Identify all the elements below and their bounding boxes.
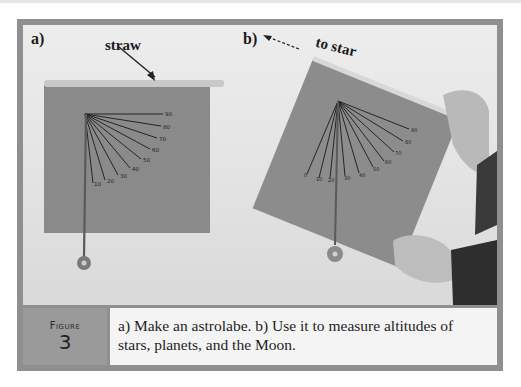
svg-text:50: 50 (373, 166, 379, 172)
svg-text:40: 40 (359, 172, 365, 178)
panel-b-board (253, 56, 477, 274)
svg-text:20: 20 (107, 178, 114, 184)
panel-b-label: b) (243, 30, 257, 48)
lower-hand (393, 235, 453, 282)
svg-text:40: 40 (132, 166, 139, 172)
svg-text:10: 10 (94, 181, 101, 187)
figure-caption-box: a) Make an astrolabe. b) Use it to measu… (110, 308, 497, 365)
svg-text:10: 10 (316, 176, 322, 182)
svg-text:70: 70 (159, 136, 166, 142)
straw-annotation: straw (105, 37, 141, 54)
figure-caption: a) Make an astrolabe. b) Use it to measu… (110, 308, 497, 354)
svg-text:90: 90 (165, 111, 172, 117)
svg-text:70: 70 (395, 150, 401, 156)
svg-text:30: 30 (120, 173, 127, 179)
svg-text:60: 60 (385, 159, 391, 165)
figure-photo: 908070 605040 302010 908070 (23, 25, 497, 305)
svg-text:80: 80 (163, 124, 170, 130)
panel-a-straw (44, 80, 224, 87)
svg-text:80: 80 (405, 139, 411, 145)
page-top-band (0, 0, 521, 3)
svg-text:60: 60 (152, 147, 159, 153)
svg-text:0: 0 (304, 172, 307, 178)
panel-a-label: a) (31, 30, 44, 48)
panel-a-board (44, 85, 210, 233)
astrolabe-illustration: 908070 605040 302010 908070 (23, 25, 497, 305)
figure-number: 3 (23, 331, 107, 353)
svg-text:50: 50 (143, 157, 150, 163)
svg-text:30: 30 (344, 175, 350, 181)
lower-sleeve (451, 240, 497, 305)
figure-label-box: Figure 3 (23, 308, 107, 365)
svg-text:90: 90 (411, 127, 417, 133)
svg-text:20: 20 (328, 177, 334, 183)
